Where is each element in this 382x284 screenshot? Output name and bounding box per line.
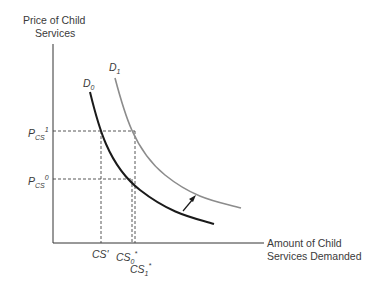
demand-curve-d1 bbox=[115, 78, 241, 208]
cs1-star-label: CS1* bbox=[130, 260, 151, 280]
x-axis-label-line1: Amount of Child bbox=[267, 237, 342, 249]
y-axis-label-line1: Price of Child bbox=[23, 14, 85, 26]
arrow-head-icon bbox=[189, 195, 196, 202]
pcs0-label: PCS0 bbox=[28, 172, 49, 192]
d0-label: D0 bbox=[83, 77, 95, 94]
d1-label: D1 bbox=[109, 61, 121, 78]
dashed-guides bbox=[53, 131, 135, 243]
y-axis-label-line2: Services bbox=[35, 27, 75, 39]
x-axis-label-line2: Services Demanded bbox=[267, 250, 362, 262]
cs-prime-label: CS' bbox=[92, 248, 109, 260]
demand-curve-d0 bbox=[90, 92, 214, 224]
pcs1-label: PCS1 bbox=[28, 124, 49, 144]
